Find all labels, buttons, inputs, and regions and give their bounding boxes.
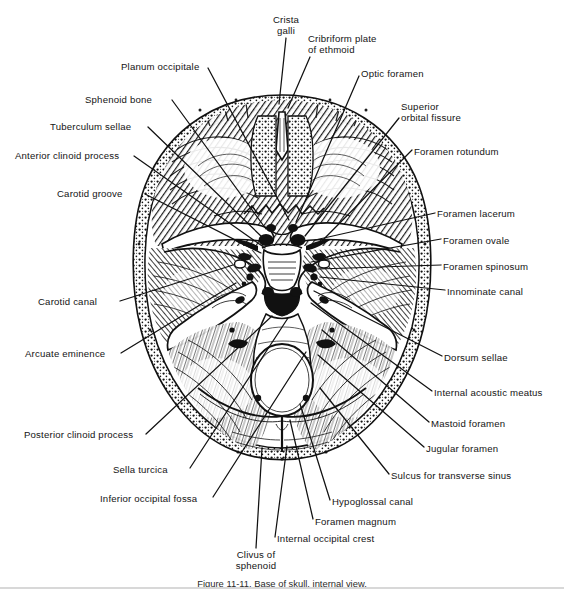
label-sulcus-transverse-sinus: Sulcus for transverse sinus (391, 470, 511, 481)
label-superior-orbital-fissure: Superior orbital fissure (401, 101, 461, 124)
label-dorsum-sellae: Dorsum sellae (444, 352, 508, 363)
label-clivus-of-sphenoid: Clivus of sphenoid (196, 549, 316, 572)
label-foramen-magnum: Foramen magnum (315, 516, 396, 527)
label-sella-turcica: Sella turcica (113, 464, 168, 475)
label-posterior-clinoid-process: Posterior clinoid process (24, 429, 133, 440)
label-carotid-groove: Carotid groove (57, 188, 123, 199)
label-foramen-rotundum: Foramen rotundum (414, 146, 499, 157)
label-foramen-lacerum: Foramen lacerum (437, 208, 515, 219)
label-cribriform-plate: Cribriform plate of ethmoid (308, 33, 377, 56)
label-innominate-canal: Innominate canal (447, 286, 523, 297)
skull-drawing (133, 95, 431, 461)
label-anterior-clinoid-process: Anterior clinoid process (15, 150, 119, 161)
label-optic-foramen: Optic foramen (361, 68, 424, 79)
label-sphenoid-bone: Sphenoid bone (85, 94, 152, 105)
label-carotid-canal: Carotid canal (38, 296, 97, 307)
label-internal-acoustic-meatus: Internal acoustic meatus (434, 387, 543, 398)
label-foramen-ovale: Foramen ovale (443, 235, 510, 246)
label-foramen-spinosum: Foramen spinosum (443, 261, 528, 272)
label-arcuate-eminence: Arcuate eminence (25, 348, 105, 359)
skull-base-figure: Crista galliCribriform plate of ethmoidP… (0, 0, 564, 589)
label-planum-occipitale: Planum occipitale (121, 61, 199, 72)
label-mastoid-foramen: Mastoid foramen (431, 418, 505, 429)
label-tuberculum-sellae: Tuberculum sellae (50, 121, 131, 132)
label-internal-occipital-crest: Internal occipital crest (277, 533, 374, 544)
label-inferior-occipital-fossa: Inferior occipital fossa (100, 493, 197, 504)
label-hypoglossal-canal: Hypoglossal canal (332, 496, 413, 507)
label-jugular-foramen: Jugular foramen (426, 443, 498, 454)
